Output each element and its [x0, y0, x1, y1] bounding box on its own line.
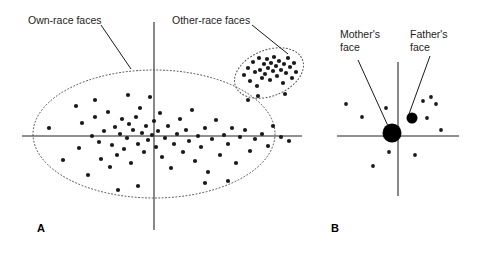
data-point	[102, 129, 106, 133]
data-point	[150, 133, 154, 137]
data-point	[253, 70, 257, 74]
data-point	[115, 153, 119, 157]
data-point	[226, 142, 230, 146]
data-point	[288, 65, 292, 69]
data-point	[263, 72, 267, 76]
data-point	[384, 106, 388, 110]
data-point	[429, 95, 433, 99]
data-point	[421, 99, 425, 103]
data-point	[131, 128, 135, 132]
data-point	[251, 60, 255, 64]
data-point	[260, 132, 264, 136]
data-point	[262, 62, 266, 66]
data-point	[279, 68, 283, 72]
data-point	[148, 95, 152, 99]
data-point	[344, 102, 348, 106]
data-point	[99, 157, 103, 161]
panel-label-a: A	[37, 222, 45, 234]
data-point	[281, 81, 285, 85]
data-point	[425, 116, 429, 120]
annotation-fathers-face: Father's face	[410, 28, 448, 53]
data-point	[277, 59, 281, 63]
highlighted-point-father-s-face	[407, 113, 418, 124]
data-point	[138, 106, 142, 110]
leader-line-own-race-faces	[101, 25, 131, 69]
data-point	[255, 84, 259, 88]
data-point	[286, 56, 290, 60]
data-point	[260, 76, 264, 80]
data-point	[218, 153, 222, 157]
highlighted-point-mother-s-face	[383, 124, 402, 143]
data-point	[152, 119, 156, 123]
data-point	[234, 161, 238, 165]
data-point	[160, 155, 164, 159]
data-point	[163, 136, 167, 140]
data-point	[246, 66, 250, 70]
data-point	[248, 149, 252, 153]
data-point	[258, 68, 262, 72]
data-point	[120, 117, 124, 121]
data-point	[113, 125, 117, 129]
data-point	[360, 115, 364, 119]
data-point	[172, 142, 176, 146]
panel-label-b: B	[331, 222, 339, 234]
data-point	[283, 92, 287, 96]
data-point	[93, 98, 97, 102]
annotation-other-race-faces: Other-race faces	[172, 14, 250, 27]
data-point	[193, 159, 197, 163]
data-point	[106, 110, 110, 114]
data-point	[214, 118, 218, 122]
data-point	[158, 111, 162, 115]
data-point	[86, 173, 90, 177]
data-point	[110, 143, 114, 147]
data-point	[271, 69, 275, 73]
data-point	[292, 61, 296, 65]
data-point	[125, 136, 129, 140]
data-point	[175, 132, 179, 136]
data-point	[178, 117, 182, 121]
data-point	[206, 170, 210, 174]
data-point	[142, 150, 146, 154]
data-point	[74, 104, 78, 108]
data-point	[265, 57, 269, 61]
data-point	[97, 140, 101, 144]
data-point	[146, 138, 150, 142]
data-point	[256, 94, 260, 98]
data-point	[243, 128, 247, 132]
data-point	[253, 137, 257, 141]
data-point	[266, 66, 270, 70]
data-point	[90, 134, 94, 138]
data-point	[203, 181, 207, 185]
cluster-boundary-1	[227, 38, 311, 108]
data-point	[169, 166, 173, 170]
data-point	[222, 133, 226, 137]
data-point	[184, 128, 188, 132]
data-point	[271, 124, 275, 128]
data-point	[199, 145, 203, 149]
data-point	[282, 62, 286, 66]
data-point	[387, 150, 391, 154]
data-point	[134, 115, 138, 119]
data-point	[116, 188, 120, 192]
data-point	[108, 165, 112, 169]
data-point	[246, 98, 250, 102]
data-point	[284, 71, 288, 75]
data-point	[269, 61, 273, 65]
data-point	[187, 139, 191, 143]
data-point	[266, 144, 270, 148]
data-point	[181, 150, 185, 154]
data-point	[80, 121, 84, 125]
data-point	[230, 126, 234, 130]
data-point	[434, 102, 438, 106]
data-point	[275, 74, 279, 78]
data-point	[47, 126, 51, 130]
data-point	[248, 79, 252, 83]
data-point	[279, 135, 283, 139]
data-point	[287, 139, 291, 143]
data-point	[154, 145, 158, 149]
data-point	[61, 158, 65, 162]
leader-line-other-race-faces	[252, 25, 288, 54]
data-point	[136, 184, 140, 188]
data-point	[118, 132, 122, 136]
data-point	[77, 146, 81, 150]
